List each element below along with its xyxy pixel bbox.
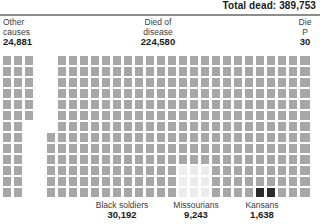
unit-square-died-of-disease [157, 144, 165, 153]
unit-square-other-causes [14, 188, 22, 197]
unit-square-died-of-disease [80, 78, 88, 87]
unit-square-kansans [256, 188, 264, 197]
unit-square-other-causes [3, 67, 11, 76]
unit-square-died-of-disease [124, 56, 132, 65]
unit-square-other-causes [25, 56, 33, 65]
unit-square-died-of-disease [80, 177, 88, 186]
unit-square-died-of-disease [256, 133, 264, 142]
unit-square-other-causes [14, 89, 22, 98]
unit-square-died-as-prisoners [302, 144, 310, 153]
unit-square-died-of-disease [47, 177, 55, 186]
unit-square-other-causes [3, 155, 11, 164]
unit-square-died-of-disease [157, 155, 165, 164]
unit-square-other-causes [14, 67, 22, 76]
unit-square-died-of-disease [69, 111, 77, 120]
unit-square-died-of-disease [157, 111, 165, 120]
unit-square-died-of-disease [190, 78, 198, 87]
unit-square-died-of-disease [113, 67, 121, 76]
caption-line-1: Other [3, 17, 24, 27]
unit-square-died-of-disease [278, 177, 286, 186]
unit-square-died-of-disease [102, 56, 110, 65]
unit-square-died-of-disease [212, 155, 220, 164]
unit-square-died-of-disease [278, 78, 286, 87]
unit-square-died-of-disease [113, 188, 121, 197]
unit-square-died-of-disease [157, 122, 165, 131]
subset-caption-black-soldiers: Black soldiers 30,192 [96, 200, 148, 220]
unit-square-died-as-prisoners [302, 122, 310, 131]
unit-square-died-of-disease [168, 56, 176, 65]
infographic-canvas: Total dead: 389,753 Other causes 24,881 … [0, 0, 320, 224]
unit-square-died-of-disease [289, 67, 297, 76]
unit-square-died-of-disease [102, 166, 110, 175]
unit-square-died-of-disease [234, 67, 242, 76]
unit-square-died-of-disease [289, 78, 297, 87]
unit-square-other-causes [14, 111, 22, 120]
unit-square-died-of-disease [168, 67, 176, 76]
unit-square-died-of-disease [245, 166, 253, 175]
unit-square-died-of-disease [289, 122, 297, 131]
unit-square-died-of-disease [234, 133, 242, 142]
unit-square-died-of-disease [135, 78, 143, 87]
unit-square-died-of-disease [58, 78, 66, 87]
unit-square-died-of-disease [212, 89, 220, 98]
unit-square-died-of-disease [190, 56, 198, 65]
unit-square-died-of-disease [245, 122, 253, 131]
unit-square-missourians [201, 166, 209, 175]
column-caption-died-as-prisoners: Die P 30 [299, 18, 312, 47]
subset-value: 9,243 [173, 210, 218, 220]
unit-square-died-of-disease [190, 100, 198, 109]
unit-square-other-causes [3, 111, 11, 120]
unit-square-died-of-disease [91, 177, 99, 186]
unit-square-died-of-disease [234, 188, 242, 197]
unit-square-other-causes [3, 89, 11, 98]
unit-square-died-of-disease [212, 111, 220, 120]
unit-square-died-of-disease [135, 67, 143, 76]
unit-square-died-of-disease [80, 67, 88, 76]
unit-square-died-of-disease [234, 144, 242, 153]
unit-square-died-of-disease [146, 188, 154, 197]
unit-square-died-of-disease [223, 100, 231, 109]
unit-square-died-of-disease [223, 111, 231, 120]
unit-square-died-of-disease [113, 144, 121, 153]
column-caption-died-of-disease: Died of disease 224,580 [141, 18, 175, 47]
unit-square-died-of-disease [102, 177, 110, 186]
unit-square-died-of-disease [135, 155, 143, 164]
unit-square-died-of-disease [256, 67, 264, 76]
unit-square-died-of-disease [80, 144, 88, 153]
unit-square-died-of-disease [289, 56, 297, 65]
unit-square-died-of-disease [256, 166, 264, 175]
unit-square-died-of-disease [267, 111, 275, 120]
unit-square-died-of-disease [124, 89, 132, 98]
unit-square-died-of-disease [212, 100, 220, 109]
unit-square-died-of-disease [58, 122, 66, 131]
unit-square-missourians [201, 188, 209, 197]
unit-square-died-of-disease [212, 67, 220, 76]
unit-square-missourians [190, 177, 198, 186]
unit-square-died-of-disease [212, 122, 220, 131]
unit-square-other-causes [14, 56, 22, 65]
unit-square-other-causes [25, 100, 33, 109]
caption-value: 224,580 [141, 37, 175, 47]
unit-square-died-of-disease [267, 67, 275, 76]
unit-square-died-of-disease [223, 144, 231, 153]
unit-square-died-as-prisoners [302, 133, 310, 142]
unit-square-died-of-disease [201, 144, 209, 153]
unit-square-died-of-disease [234, 78, 242, 87]
unit-square-died-of-disease [91, 78, 99, 87]
unit-square-died-of-disease [69, 78, 77, 87]
unit-square-missourians [179, 166, 187, 175]
unit-square-other-causes [14, 133, 22, 142]
unit-square-other-causes [25, 111, 33, 120]
unit-square-died-of-disease [47, 133, 55, 142]
unit-square-died-of-disease [168, 100, 176, 109]
unit-square-died-of-disease [135, 111, 143, 120]
unit-square-died-as-prisoners [302, 177, 310, 186]
unit-square-died-of-disease [157, 188, 165, 197]
unit-square-died-of-disease [223, 177, 231, 186]
unit-square-died-of-disease [256, 155, 264, 164]
unit-square-died-of-disease [278, 155, 286, 164]
unit-square-died-of-disease [201, 78, 209, 87]
unit-square-died-of-disease [113, 133, 121, 142]
unit-square-died-of-disease [146, 133, 154, 142]
unit-square-other-causes [3, 188, 11, 197]
